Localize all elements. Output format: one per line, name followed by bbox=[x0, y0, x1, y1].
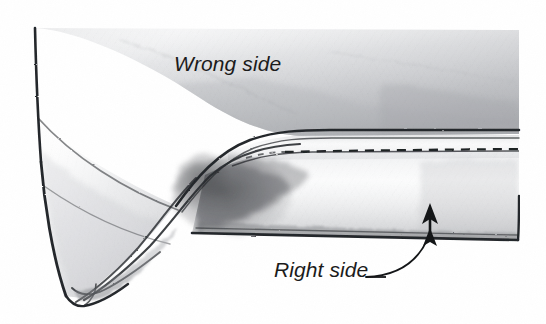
label-wrong-side: Wrong side bbox=[174, 52, 281, 76]
label-right-side: Right side bbox=[274, 258, 368, 282]
illustration-canvas: Wrong side Right side bbox=[0, 0, 546, 324]
paper-grain bbox=[0, 0, 546, 324]
fabric-hem-drawing bbox=[0, 0, 546, 324]
